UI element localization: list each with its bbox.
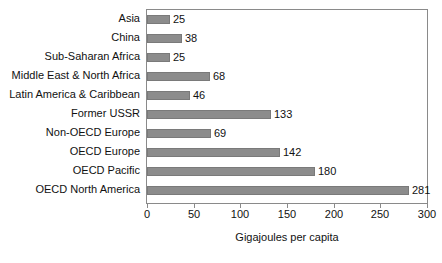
bar-row: 46: [147, 86, 427, 105]
bar-value-label: 25: [173, 10, 185, 29]
category-label: OECD North America: [35, 180, 140, 199]
bar: [147, 186, 409, 195]
category-label: OECD Pacific: [73, 161, 140, 180]
category-label: Latin America & Caribbean: [9, 85, 140, 104]
bar: [147, 129, 211, 138]
bar-row: 180: [147, 162, 427, 181]
bar-value-label: 142: [283, 143, 301, 162]
bar: [147, 15, 170, 24]
bar: [147, 167, 315, 176]
bar: [147, 72, 210, 81]
bar-row: 25: [147, 48, 427, 67]
x-axis: 0 50 100 150 200 250 300: [146, 204, 428, 224]
bar-value-label: 281: [412, 181, 430, 200]
x-axis-tick-label: 200: [325, 208, 343, 220]
category-label: Sub-Saharan Africa: [45, 47, 140, 66]
bar-row: 69: [147, 124, 427, 143]
x-axis-tick-label: 300: [418, 208, 436, 220]
bar-value-label: 25: [173, 48, 185, 67]
bar-value-label: 69: [214, 124, 226, 143]
bar-value-label: 68: [213, 67, 225, 86]
bar-value-label: 180: [318, 162, 336, 181]
x-axis-tick-label: 100: [231, 208, 249, 220]
bar: [147, 91, 190, 100]
bar-row: 281: [147, 181, 427, 200]
category-label: Asia: [119, 9, 140, 28]
bar: [147, 110, 271, 119]
x-axis-tick-label: 50: [188, 208, 200, 220]
category-label: OECD Europe: [70, 142, 140, 161]
bar-value-label: 38: [185, 29, 197, 48]
category-label: China: [111, 28, 140, 47]
bar: [147, 148, 280, 157]
category-label: Non-OECD Europe: [46, 123, 140, 142]
bar-row: 142: [147, 143, 427, 162]
bar-value-label: 46: [193, 86, 205, 105]
bar-row: 25: [147, 10, 427, 29]
x-axis-title: Gigajoules per capita: [146, 231, 428, 243]
category-axis: Asia China Sub-Saharan Africa Middle Eas…: [0, 9, 144, 203]
bar-row: 68: [147, 67, 427, 86]
x-axis-tick-label: 0: [144, 208, 150, 220]
bar: [147, 53, 170, 62]
bar-row: 38: [147, 29, 427, 48]
plot-area: 25 38 25 68 46 133 69 142 180 281: [146, 9, 428, 204]
bar-row: 133: [147, 105, 427, 124]
bar-value-label: 133: [274, 105, 292, 124]
bar: [147, 34, 182, 43]
bar-chart: Asia China Sub-Saharan Africa Middle Eas…: [0, 0, 442, 263]
bars-layer: 25 38 25 68 46 133 69 142 180 281: [147, 10, 427, 203]
category-label: Former USSR: [71, 104, 140, 123]
x-axis-tick-label: 150: [278, 208, 296, 220]
category-label: Middle East & North Africa: [12, 66, 140, 85]
x-axis-tick-label: 250: [371, 208, 389, 220]
